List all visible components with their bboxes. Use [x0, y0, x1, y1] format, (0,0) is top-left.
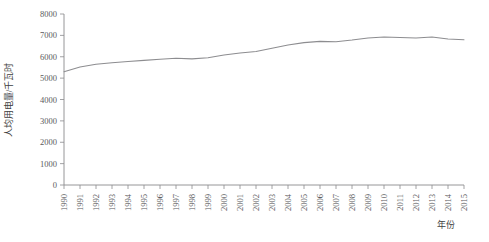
x-axis-tick-label: 1991 [75, 194, 85, 211]
x-axis-tick-label: 2004 [283, 193, 293, 211]
y-axis-title: 人均用电量/千瓦时 [3, 63, 14, 138]
x-axis-tick-label: 2000 [219, 194, 229, 211]
x-axis-tick-label: 1997 [171, 194, 181, 211]
y-axis-tick-label: 7000 [40, 30, 57, 40]
x-axis-tick-label: 2005 [299, 194, 309, 211]
x-axis-tick-label: 2013 [427, 194, 437, 211]
x-axis-title: 年份 [437, 219, 455, 230]
x-axis-tick-label: 1996 [155, 194, 165, 211]
x-axis-tick-label: 1992 [91, 194, 101, 211]
x-axis-tick-label: 2015 [459, 194, 469, 211]
x-axis-tick-label: 2008 [347, 194, 357, 211]
x-axis-tick-label: 2014 [443, 193, 453, 211]
x-axis-tick-label: 2010 [379, 194, 389, 211]
x-axis-tick-label: 1993 [107, 194, 117, 211]
y-axis-tick-label: 6000 [40, 52, 57, 62]
y-axis-tick-label: 0 [53, 180, 57, 190]
x-axis-tick-label: 1995 [139, 194, 149, 211]
x-axis-tick-label: 1998 [187, 194, 197, 211]
x-axis-tick-label: 1994 [123, 193, 133, 211]
x-axis-tick-label: 2002 [251, 194, 261, 211]
x-axis-tick-label: 1999 [203, 194, 213, 211]
y-axis-tick-label: 2000 [40, 137, 57, 147]
chart-container: 010002000300040005000600070008000 199019… [0, 0, 489, 242]
x-axis-tick-label: 2011 [395, 194, 405, 211]
x-axis-tick-label: 2001 [235, 194, 245, 211]
y-axis-tick-label: 4000 [40, 95, 57, 105]
x-axis-tick-label: 2006 [315, 194, 325, 211]
x-axis-tick-label: 2003 [267, 194, 277, 211]
y-axis-tick-label: 1000 [40, 159, 57, 169]
x-axis-tick-label: 2009 [363, 194, 373, 211]
y-axis-tick-label: 3000 [40, 116, 57, 126]
line-chart: 010002000300040005000600070008000 199019… [0, 0, 489, 242]
x-axis-tick-label: 1990 [59, 194, 69, 211]
y-axis-tick-label: 5000 [40, 73, 57, 83]
x-axis-tick-label: 2012 [411, 194, 421, 211]
y-axis-tick-label: 8000 [40, 9, 57, 19]
x-axis-tick-label: 2007 [331, 194, 341, 211]
